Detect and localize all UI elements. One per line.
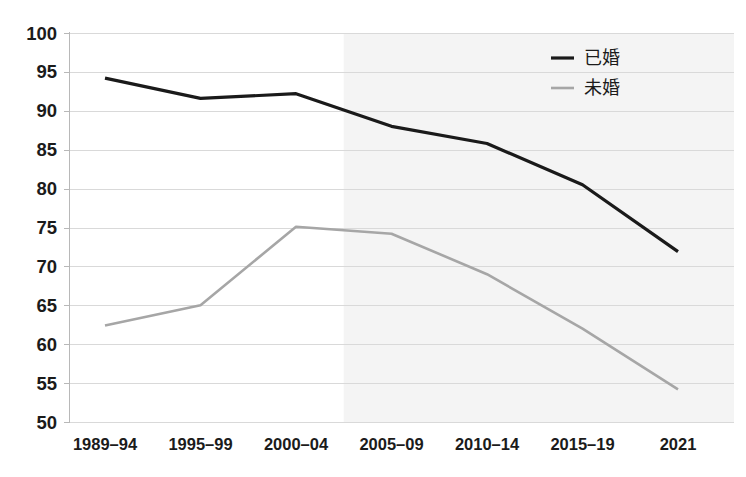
x-axis-label-2: 2000–04 [264, 435, 329, 453]
y-axis-label-85: 85 [36, 139, 57, 160]
y-axis-label-100: 100 [26, 23, 57, 44]
x-axis-ticks: 1989–941995–992000–042005–092010–142015–… [73, 435, 696, 453]
legend-label-married: 已婚 [584, 47, 620, 68]
shaded-band-rect [344, 33, 734, 422]
y-axis-label-70: 70 [36, 256, 57, 277]
y-axis-label-80: 80 [36, 178, 57, 199]
legend-label-unmarried: 未婚 [584, 77, 620, 98]
y-axis-label-60: 60 [36, 334, 57, 355]
x-axis-label-3: 2005–09 [359, 435, 423, 453]
x-axis-label-1: 1995–99 [168, 435, 232, 453]
y-axis-label-50: 50 [36, 412, 57, 433]
y-axis-ticks: 50556065707580859095100 [26, 23, 70, 433]
y-axis-label-95: 95 [36, 61, 57, 82]
chart-canvas: 50556065707580859095100 1989–941995–9920… [0, 0, 746, 477]
x-axis-label-6: 2021 [660, 435, 697, 453]
shaded-period-band [344, 33, 734, 422]
x-axis-label-5: 2015–19 [550, 435, 614, 453]
y-axis-label-55: 55 [36, 373, 57, 394]
line-chart-figure: 50556065707580859095100 1989–941995–9920… [0, 0, 746, 477]
y-axis-label-65: 65 [36, 295, 57, 316]
x-axis-label-0: 1989–94 [73, 435, 138, 453]
y-axis-label-90: 90 [36, 100, 57, 121]
y-axis-label-75: 75 [36, 217, 57, 238]
x-axis-label-4: 2010–14 [455, 435, 520, 453]
